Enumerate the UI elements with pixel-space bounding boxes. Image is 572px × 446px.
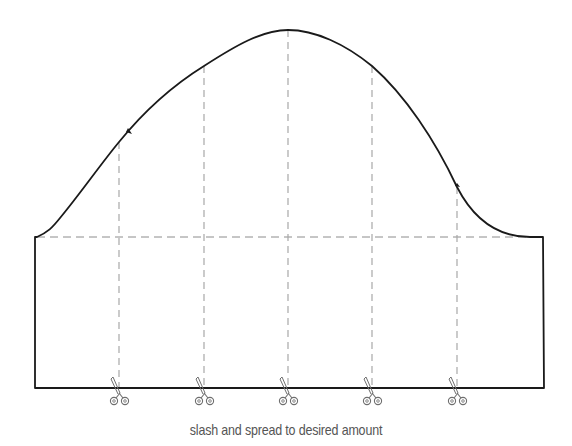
sleeve-pattern-diagram — [0, 0, 572, 446]
sleeve-outline — [35, 30, 544, 388]
slash-lines — [119, 30, 457, 388]
scissors-icon — [110, 377, 128, 405]
diagram-caption: slash and spread to desired amount — [40, 422, 532, 438]
